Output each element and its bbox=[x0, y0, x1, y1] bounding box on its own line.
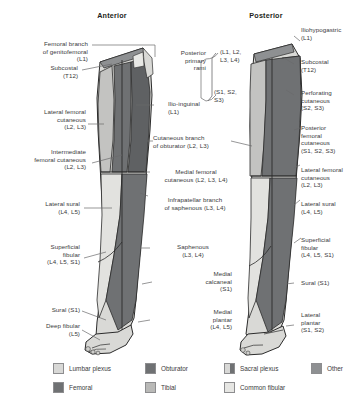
label-line: femoral bbox=[301, 132, 363, 140]
label-line: (T12) bbox=[301, 66, 361, 74]
label-perforating-cutaneous: Perforating cutaneous (S2, S3) bbox=[301, 89, 361, 112]
label-line: of obturator (L2, L3) bbox=[153, 142, 249, 150]
label-line: (L5) bbox=[10, 330, 80, 338]
label-line: Saphenous bbox=[160, 243, 226, 251]
label-line: Intermediate bbox=[2, 148, 86, 156]
label-line: femoral cutaneous bbox=[2, 156, 86, 164]
legend-swatch-lumbar-plexus bbox=[53, 363, 64, 374]
label-line: Medial bbox=[170, 270, 232, 278]
label-line: cutaneous (L2, L3, L4) bbox=[142, 176, 250, 184]
label-line: Ilio-inguinal bbox=[168, 100, 230, 108]
label-line: Lateral bbox=[301, 311, 363, 319]
label-line: (L2, L3) bbox=[301, 181, 363, 189]
label-line: Iliohypogastric bbox=[301, 26, 361, 34]
legend: Lumbar plexus Obturator Sacral plexus Ot… bbox=[0, 356, 364, 413]
legend-item-other: Other bbox=[311, 363, 343, 374]
label-line: Femoral branch bbox=[10, 40, 88, 48]
label-line: (L4, L5) bbox=[12, 208, 80, 216]
label-line: Cutaneous branch bbox=[153, 134, 249, 142]
label-line: Subcostal bbox=[301, 58, 361, 66]
label-line: (L1) bbox=[168, 108, 230, 116]
label-line: Lateral sural bbox=[301, 200, 363, 208]
label-line: Infrapatellar branch bbox=[140, 196, 250, 204]
label-lateral-plantar: Lateral plantar (S1, S2) bbox=[301, 311, 363, 334]
label-medial-plantar: Medial plantar (L4, L5) bbox=[170, 308, 232, 331]
label-line: Lateral femoral bbox=[301, 166, 363, 174]
legend-label: Tibial bbox=[161, 384, 176, 391]
label-line: Superficial bbox=[8, 243, 80, 251]
label-line: (L2, L3) bbox=[2, 163, 86, 171]
label-line: L3, L4) bbox=[220, 56, 262, 64]
legend-swatch-femoral bbox=[53, 382, 64, 393]
legend-item-sacral-plexus: Sacral plexus bbox=[224, 363, 278, 374]
label-line: (S2, S3) bbox=[301, 104, 361, 112]
label-line: cutaneous bbox=[6, 116, 86, 124]
label-infrapatellar-branch-saphenous: Infrapatellar branch of saphenous (L3, L… bbox=[140, 196, 250, 211]
legend-item-obturator: Obturator bbox=[145, 363, 188, 374]
legend-swatch-other bbox=[311, 363, 322, 374]
label-line: (L1, L2, bbox=[220, 48, 262, 56]
label-medial-femoral-cutaneous: Medial femoral cutaneous (L2, L3, L4) bbox=[142, 168, 250, 183]
label-cutaneous-branch-obturator: Cutaneous branch of obturator (L2, L3) bbox=[153, 134, 249, 149]
label-line: cutaneous bbox=[301, 97, 361, 105]
label-deep-fibular: Deep fibular (L5) bbox=[10, 322, 80, 337]
label-posterior-primary-rami: Posterior primary rami bbox=[150, 49, 206, 72]
legend-label: Lumbar plexus bbox=[69, 365, 111, 372]
label-line: Deep fibular bbox=[10, 322, 80, 330]
label-line: plantar bbox=[170, 316, 232, 324]
label-line: (S1, S2, S3) bbox=[301, 147, 363, 155]
label-posterior-femoral-cutaneous: Posterior femoral cutaneous (S1, S2, S3) bbox=[301, 124, 363, 154]
label-sural-anterior: Sural (S1) bbox=[14, 306, 80, 314]
label-line: Medial bbox=[170, 308, 232, 316]
label-line: Posterior bbox=[301, 124, 363, 132]
label-line: Perforating bbox=[301, 89, 361, 97]
label-superficial-fibular-posterior: Superficial fibular (L4, L5, S1) bbox=[301, 236, 363, 259]
label-line: Medial femoral bbox=[142, 168, 250, 176]
label-line: (L4, L5) bbox=[301, 208, 363, 216]
label-primary-rami-upper-roots: (L1, L2, L3, L4) bbox=[220, 48, 262, 63]
label-line: Posterior bbox=[150, 49, 206, 57]
legend-swatch-obturator bbox=[145, 363, 156, 374]
label-iliohypogastric: Iliohypogastric (L1) bbox=[301, 26, 361, 41]
legend-swatch-sacral-plexus bbox=[224, 363, 235, 374]
label-lateral-femoral-cutaneous-posterior: Lateral femoral cutaneous (L2, L3) bbox=[301, 166, 363, 189]
label-line: (L4, L5) bbox=[170, 323, 232, 331]
label-line: Superficial bbox=[301, 236, 363, 244]
label-line: (L1) bbox=[10, 55, 88, 63]
label-line: (S1, S2) bbox=[301, 326, 363, 334]
anatomy-figure: Anterior Posterior bbox=[0, 0, 364, 413]
label-superficial-fibular-anterior: Superficial fibular (L4, L5, S1) bbox=[8, 243, 80, 266]
label-line: Sural (S1) bbox=[301, 279, 363, 287]
label-line: of genitofemoral bbox=[10, 48, 88, 56]
label-line: (L3, L4) bbox=[160, 251, 226, 259]
legend-swatch-tibial bbox=[145, 382, 156, 393]
label-line: (S1) bbox=[170, 285, 232, 293]
label-line: of saphenous (L3, L4) bbox=[140, 204, 250, 212]
label-lateral-sural-posterior: Lateral sural (L4, L5) bbox=[301, 200, 363, 215]
label-line: cutaneous bbox=[301, 174, 363, 182]
label-line: (L2, L3) bbox=[6, 123, 86, 131]
label-line: (L4, L5, S1) bbox=[8, 258, 80, 266]
legend-label: Sacral plexus bbox=[240, 365, 278, 372]
label-line: calcaneal bbox=[170, 278, 232, 286]
legend-label: Obturator bbox=[161, 365, 188, 372]
label-saphenous: Saphenous (L3, L4) bbox=[160, 243, 226, 258]
label-line: (S1, S2, bbox=[214, 88, 254, 96]
legend-label: Common fibular bbox=[240, 384, 285, 391]
label-line: fibular bbox=[8, 251, 80, 259]
label-line: Lateral sural bbox=[12, 200, 80, 208]
label-line: Lateral femoral bbox=[6, 108, 86, 116]
label-line: (L1) bbox=[301, 34, 361, 42]
label-lateral-femoral-cutaneous-anterior: Lateral femoral cutaneous (L2, L3) bbox=[6, 108, 86, 131]
legend-item-femoral: Femoral bbox=[53, 382, 92, 393]
label-sural-posterior: Sural (S1) bbox=[301, 279, 363, 287]
label-line: Subcostal bbox=[10, 64, 78, 72]
label-line: rami bbox=[150, 64, 206, 72]
label-intermediate-femoral-cutaneous: Intermediate femoral cutaneous (L2, L3) bbox=[2, 148, 86, 171]
label-ilio-inguinal: Ilio-inguinal (L1) bbox=[168, 100, 230, 115]
label-line: (L4, L5, S1) bbox=[301, 251, 363, 259]
legend-swatch-common-fibular bbox=[224, 382, 235, 393]
label-line: fibular bbox=[301, 244, 363, 252]
label-line: primary bbox=[150, 57, 206, 65]
label-femoral-branch-genitofemoral: Femoral branch of genitofemoral (L1) bbox=[10, 40, 88, 63]
